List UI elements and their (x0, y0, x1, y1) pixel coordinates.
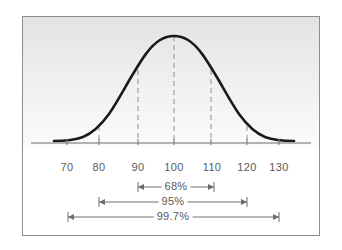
bell-curve-path (54, 36, 294, 141)
tick-label-120: 120 (237, 161, 256, 173)
tick-label-70: 70 (61, 161, 74, 173)
bracket-95-arrow-left (99, 199, 105, 205)
figure-root: 70 80 90 100 110 120 130 68% 95% 99.7% (0, 0, 342, 250)
bracket-997-arrow-right (273, 214, 279, 220)
chart-panel: 70 80 90 100 110 120 130 68% 95% 99.7% (22, 16, 320, 236)
bracket-68-arrow-right (208, 184, 214, 190)
tick-label-110: 110 (203, 161, 221, 173)
bracket-label-997: 99.7% (154, 210, 193, 222)
tick-label-90: 90 (132, 161, 145, 173)
bracket-997-arrow-left (68, 214, 74, 220)
bracket-95-arrow-right (241, 199, 247, 205)
axis-tick-marks (67, 139, 279, 145)
bracket-label-95: 95% (159, 195, 188, 207)
tick-label-80: 80 (93, 161, 106, 173)
bracket-68-arrow-left (138, 184, 144, 190)
tick-label-100: 100 (164, 161, 183, 173)
tick-label-130: 130 (269, 161, 288, 173)
bracket-label-68: 68% (162, 180, 191, 192)
